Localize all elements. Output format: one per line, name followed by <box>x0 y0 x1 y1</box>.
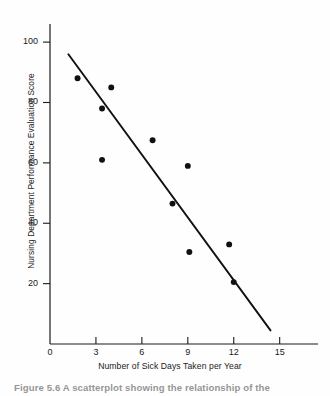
x-tick-marks <box>96 337 280 344</box>
y-axis-title: Nursing Department Performance Evaluatio… <box>26 46 36 296</box>
data-point <box>150 137 156 143</box>
y-tick-label: 40 <box>8 217 38 227</box>
figure-root: Nursing Department Performance Evaluatio… <box>0 0 330 396</box>
figure-caption: Figure 5.6 A scatterplot showing the rel… <box>14 382 320 393</box>
x-tick-label: 3 <box>85 347 107 357</box>
data-points <box>75 75 237 285</box>
y-tick-label: 20 <box>8 278 38 288</box>
x-tick-label: 12 <box>223 347 245 357</box>
data-point <box>99 106 105 112</box>
data-point <box>231 279 237 285</box>
data-point <box>99 157 105 163</box>
x-tick-label: 9 <box>177 347 199 357</box>
y-tick-marks <box>43 42 50 284</box>
scatter-plot: Nursing Department Performance Evaluatio… <box>0 0 330 396</box>
y-tick-label: 60 <box>8 157 38 167</box>
data-point <box>170 201 176 207</box>
data-point <box>75 75 81 81</box>
data-point <box>226 241 232 247</box>
x-tick-label: 0 <box>39 347 61 357</box>
data-point <box>108 84 114 90</box>
y-tick-label: 80 <box>8 96 38 106</box>
x-axis-title: Number of Sick Days Taken per Year <box>50 361 290 371</box>
chart-canvas <box>0 0 330 396</box>
x-tick-label: 6 <box>131 347 153 357</box>
y-tick-label: 100 <box>8 36 38 46</box>
x-tick-label: 15 <box>269 347 291 357</box>
trendline <box>68 54 270 330</box>
data-point <box>185 163 191 169</box>
data-point <box>186 249 192 255</box>
